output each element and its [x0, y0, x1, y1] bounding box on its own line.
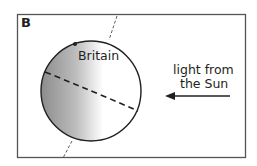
- panel-letter: B: [21, 15, 31, 30]
- britain-dot: [73, 42, 77, 46]
- britain-label: Britain: [78, 49, 119, 62]
- light-label-line2: the Sun: [180, 77, 228, 90]
- light-label-line1: light from: [173, 63, 234, 76]
